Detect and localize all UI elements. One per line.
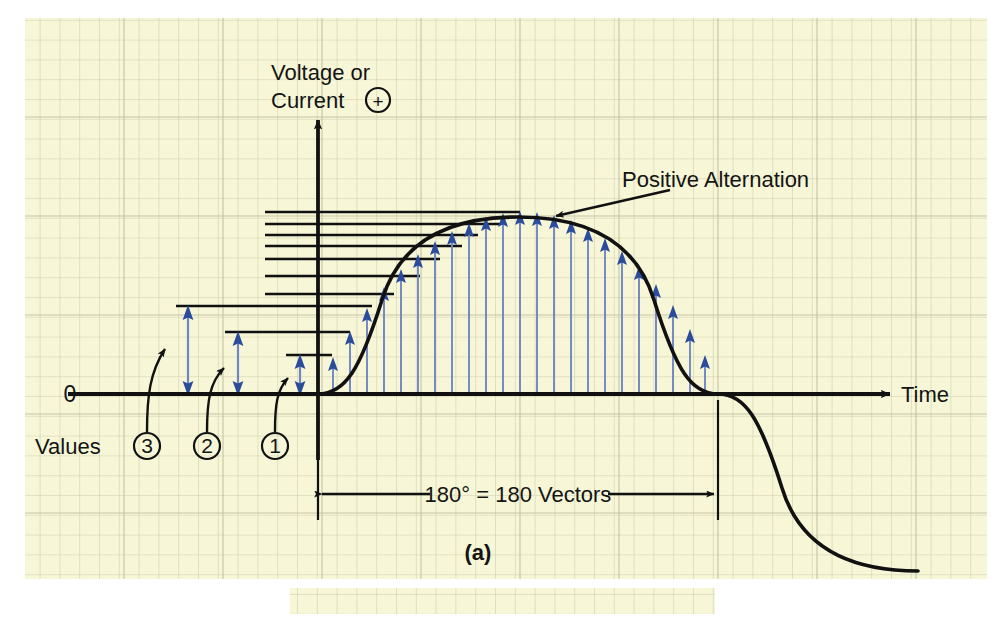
- value-badge-2-label: 2: [201, 434, 213, 457]
- figure-canvas: 3 2 1 Voltage or Current + Time 0 Positi…: [0, 0, 1003, 618]
- span-label: 180° = 180 Vectors: [425, 482, 612, 507]
- y-axis-label-line1: Voltage or: [271, 60, 370, 85]
- positive-alternation-label: Positive Alternation: [622, 167, 809, 192]
- origin-label: 0: [64, 381, 77, 407]
- value-badge-1-label: 1: [269, 434, 281, 457]
- x-axis-label: Time: [901, 382, 949, 407]
- values-label: Values: [35, 434, 101, 459]
- value-badge-3-label: 3: [141, 434, 153, 457]
- graph-paper-strip: [290, 588, 715, 614]
- polarity-badge-label: +: [372, 91, 383, 112]
- figure-caption: (a): [465, 540, 492, 565]
- y-axis-label-line2: Current: [271, 88, 344, 113]
